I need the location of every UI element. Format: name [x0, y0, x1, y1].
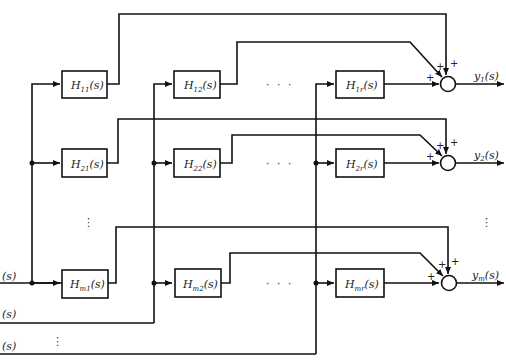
label-y2: y2(s) — [473, 149, 499, 163]
label-h1r: H1r(s) — [345, 79, 378, 94]
sign-plus: + — [438, 259, 446, 270]
label-h11: H11(s) — [70, 79, 104, 94]
sum-junction-m — [442, 276, 457, 291]
ellipsis-vertical: ⋮ — [481, 216, 494, 229]
block-diagram: H11(s) H12(s) H1r(s) H21(s) H22(s) H2r(s… — [0, 0, 506, 361]
ellipsis-vertical: ⋮ — [83, 216, 96, 229]
label-ym: ym(s) — [471, 269, 499, 283]
sum-junction-1 — [441, 77, 456, 92]
label-hm1: Hm1(s) — [69, 278, 105, 293]
sign-plus: + — [450, 58, 458, 69]
sign-plus: + — [427, 271, 435, 282]
ellipsis: · · · — [266, 277, 293, 290]
sign-plus: + — [450, 137, 458, 148]
sum-junction-2 — [441, 156, 456, 171]
sign-plus: + — [436, 140, 444, 151]
sign-plus: + — [436, 61, 444, 72]
label-input-r: (s) — [2, 340, 16, 353]
sign-plus: + — [451, 256, 459, 267]
bus-colr — [316, 84, 334, 354]
label-y1: y1(s) — [473, 70, 499, 84]
label-input-1: (s) — [2, 270, 16, 283]
bus-col1 — [32, 84, 60, 283]
bus-col2 — [154, 84, 172, 323]
label-input-2: (s) — [2, 308, 16, 321]
label-h21: H21(s) — [70, 158, 104, 173]
label-h22: H22(s) — [183, 158, 217, 173]
ellipsis: · · · — [266, 157, 293, 170]
sign-plus: + — [426, 151, 434, 162]
ellipsis: · · · — [266, 78, 293, 91]
label-hmr: Hmr(s) — [344, 278, 379, 293]
label-h2r: H2r(s) — [345, 158, 378, 173]
sign-plus: + — [426, 72, 434, 83]
ellipsis-vertical: ⋮ — [52, 335, 65, 348]
label-h12: H12(s) — [183, 79, 217, 94]
label-hm2: Hm2(s) — [182, 278, 218, 293]
